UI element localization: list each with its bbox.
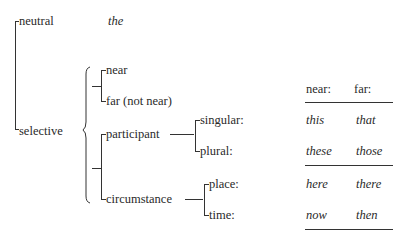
table-cell: these (306, 144, 332, 158)
table-cell: that (356, 113, 375, 127)
selective-brace (83, 67, 90, 203)
option-place: place: (209, 177, 239, 191)
option-far: far (not near) (106, 94, 172, 108)
table-cell: now (306, 208, 327, 222)
option-near: near (106, 63, 128, 77)
option-singular: singular: (200, 113, 244, 127)
table-cell: those (356, 144, 382, 158)
option-selective: selective (19, 124, 63, 138)
table-cell: then (356, 208, 378, 222)
table-cell: here (306, 177, 328, 191)
option-neutral: neutral (19, 14, 54, 28)
option-plural: plural: (200, 144, 233, 158)
table-cell: this (306, 113, 324, 127)
option-participant: participant (106, 127, 159, 141)
option-circumstance: circumstance (106, 192, 172, 206)
table-cell: there (356, 177, 381, 191)
table-header-far: far: (354, 82, 371, 96)
realization-the: the (108, 14, 123, 28)
table-header-near: near: (306, 82, 331, 96)
option-time: time: (209, 208, 235, 222)
